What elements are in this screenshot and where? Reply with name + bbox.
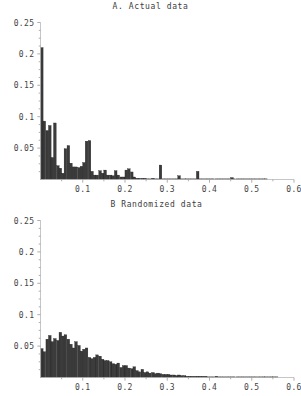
y-axis-ticks: 0.050.10.150.20.25 (14, 19, 41, 172)
x-axis-ticks: 0.10.20.30.40.50.6 (62, 378, 301, 392)
x-tick-label: 0.4 (202, 383, 218, 392)
x-tick-label: 0.5 (244, 383, 260, 392)
panel-randomized-data: B Randomized data 0.10.20.30.40.50.60.05… (0, 198, 301, 396)
histogram-bar (62, 336, 65, 377)
histogram-bar (117, 175, 120, 179)
histogram-bar (78, 345, 81, 377)
histogram-bar (85, 348, 88, 378)
histogram-bar (101, 359, 104, 377)
histogram-bar (43, 121, 46, 179)
histogram-bar (167, 374, 170, 377)
chart-svg: 0.10.20.30.40.50.60.050.10.150.20.25 (0, 198, 301, 396)
histogram-figure: A. Actual data 0.10.20.30.40.50.60.050.1… (0, 0, 301, 396)
bars-group (40, 48, 267, 180)
histogram-bar (54, 123, 57, 180)
histogram-bar (117, 363, 120, 377)
histogram-bar (93, 175, 96, 179)
histogram-bar (54, 339, 57, 378)
y-tick-label: 0.25 (14, 19, 35, 28)
histogram-bar (64, 335, 67, 378)
histogram-bar (48, 335, 51, 377)
histogram-bar (114, 171, 117, 180)
histogram-bar (43, 352, 46, 378)
y-tick-label: 0.05 (14, 144, 35, 153)
histogram-bar (75, 342, 78, 378)
histogram-bar (178, 176, 181, 180)
histogram-bar (88, 357, 91, 377)
y-tick-label: 0.2 (19, 50, 35, 59)
histogram-bar (159, 165, 162, 179)
x-tick-label: 0.1 (75, 185, 91, 194)
x-tick-label: 0.3 (159, 185, 175, 194)
histogram-bar (133, 367, 136, 378)
x-tick-label: 0.6 (286, 185, 301, 194)
histogram-bar (83, 349, 86, 377)
histogram-bar (149, 373, 152, 377)
histogram-bar (99, 356, 102, 377)
histogram-bar (112, 176, 115, 180)
histogram-bar (99, 171, 102, 180)
histogram-bar (62, 173, 65, 179)
x-tick-label: 0.2 (117, 185, 133, 194)
histogram-bar (75, 167, 78, 180)
y-tick-label: 0.2 (19, 248, 35, 257)
x-tick-label: 0.1 (75, 383, 91, 392)
y-axis-ticks: 0.050.10.150.20.25 (14, 217, 41, 370)
histogram-bar (57, 340, 60, 377)
y-tick-label: 0.25 (14, 217, 35, 226)
histogram-bar (70, 163, 73, 179)
histogram-bar (88, 141, 91, 180)
histogram-bar (78, 168, 81, 180)
histogram-bar (70, 344, 73, 377)
histogram-bar (96, 175, 99, 179)
histogram-bar (104, 361, 107, 378)
histogram-bar (106, 175, 109, 179)
histogram-bar (109, 175, 112, 179)
x-tick-label: 0.2 (117, 383, 133, 392)
histogram-bar (120, 367, 123, 377)
histogram-bar (83, 163, 86, 180)
histogram-bar (85, 141, 88, 179)
histogram-bar (165, 374, 168, 377)
chart-svg: 0.10.20.30.40.50.60.050.10.150.20.25 (0, 0, 301, 198)
panel-actual-data: A. Actual data 0.10.20.30.40.50.60.050.1… (0, 0, 301, 198)
histogram-bar (109, 362, 112, 378)
histogram-bar (130, 172, 133, 180)
histogram-bar (125, 170, 128, 179)
plot-area-actual: 0.10.20.30.40.50.60.050.10.150.20.25 (0, 0, 301, 198)
histogram-bar (106, 361, 109, 378)
y-tick-label: 0.1 (19, 113, 35, 122)
histogram-bar (67, 339, 70, 377)
histogram-bar (146, 372, 149, 378)
histogram-bar (51, 342, 54, 378)
histogram-bar (112, 364, 115, 378)
histogram-bar (46, 131, 49, 180)
histogram-bar (101, 173, 104, 179)
y-tick-label: 0.1 (19, 311, 35, 320)
histogram-bar (93, 357, 96, 377)
histogram-bar (157, 373, 160, 377)
x-tick-label: 0.4 (202, 185, 218, 194)
bars-group (40, 332, 278, 377)
histogram-bar (91, 171, 94, 179)
y-tick-label: 0.15 (14, 279, 35, 288)
histogram-bar (127, 169, 130, 180)
histogram-bar (127, 368, 130, 377)
plot-area-randomized: 0.10.20.30.40.50.60.050.10.150.20.25 (0, 198, 301, 396)
histogram-bar (46, 339, 49, 377)
histogram-bar (72, 167, 75, 180)
histogram-bar (159, 374, 162, 378)
histogram-bar (48, 125, 51, 179)
histogram-bar (91, 359, 94, 378)
y-tick-label: 0.05 (14, 342, 35, 351)
histogram-bar (59, 168, 62, 179)
x-axis-ticks: 0.10.20.30.40.50.6 (62, 180, 301, 194)
histogram-bar (67, 146, 70, 180)
histogram-bar (136, 371, 139, 378)
histogram-bar (114, 364, 117, 377)
histogram-bar (96, 355, 99, 378)
histogram-bar (138, 372, 141, 378)
histogram-bar (144, 372, 147, 377)
histogram-bar (152, 372, 155, 377)
histogram-bar (196, 171, 199, 179)
